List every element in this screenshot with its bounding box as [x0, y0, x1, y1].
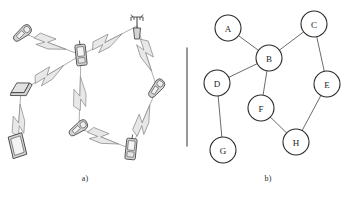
caption-panel-b: b): [248, 174, 288, 183]
tower-mast: [133, 28, 140, 39]
mobile-phone-6: [146, 77, 167, 100]
graph-node-g: G: [210, 137, 236, 163]
graph-edge-a-b: [238, 36, 258, 51]
lightning-bolt-shape: [32, 32, 68, 55]
lightning-bolt-shape: [85, 126, 120, 150]
node-label-g: G: [220, 146, 227, 156]
graph-edge-c-e: [317, 37, 324, 72]
device-pda-1: [74, 40, 87, 66]
graph-svg: ABCDEFGH: [176, 0, 352, 198]
tablet-4: [8, 132, 27, 158]
wireless-mesh-svg: [0, 0, 176, 198]
node-label-h: H: [293, 138, 300, 148]
node-label-f: F: [258, 104, 263, 114]
graph-edge-b-f: [263, 71, 267, 95]
graph-node-f: F: [248, 95, 274, 121]
mobile-phone-0: [11, 23, 34, 44]
node-label-b: B: [266, 54, 272, 64]
lightning-bolt-7: [131, 102, 155, 138]
caption-panel-a: a): [65, 174, 105, 183]
lightning-bolt-shape: [89, 28, 125, 54]
graph-edge-b-c: [279, 32, 303, 50]
pda-keypad: [127, 151, 134, 157]
node-label-e: E: [324, 80, 330, 90]
graph-edge-e-h: [302, 95, 321, 130]
lightning-bolt-shape: [135, 37, 157, 73]
device-flip-phone-5: [67, 118, 90, 138]
graph-node-layer: ABCDEFGH: [204, 11, 340, 163]
lightning-bolt-shape: [32, 60, 67, 88]
antenna-tower-2: [131, 15, 143, 40]
graph-node-d: D: [204, 70, 230, 96]
mobile-phone-5: [67, 118, 90, 138]
node-label-c: C: [311, 20, 317, 30]
lightning-bolt-shape: [131, 102, 155, 138]
device-tablet-4: [8, 132, 27, 158]
lightning-bolt-shape: [12, 104, 26, 138]
lightning-bolt-0: [32, 32, 68, 55]
lightning-bolt-3: [73, 76, 86, 110]
device-flip-phone-6: [146, 77, 167, 100]
device-laptop-3: [7, 79, 34, 101]
device-flip-phone-0: [11, 23, 34, 44]
figure-container: ABCDEFGH a) b): [0, 0, 352, 198]
node-label-d: D: [214, 79, 221, 89]
graph-edge-d-g: [218, 96, 222, 137]
graph-node-a: A: [215, 15, 241, 41]
lightning-bolt-shape: [73, 76, 86, 110]
panel-b-graph: ABCDEFGH: [176, 0, 352, 198]
handheld-pda-1: [74, 40, 87, 66]
lightning-bolt-4: [135, 37, 157, 73]
graph-node-e: E: [314, 71, 340, 97]
pda-screen: [77, 46, 85, 56]
device-antenna-tower-2: [131, 15, 143, 40]
panel-a-wireless-mesh: [0, 0, 176, 198]
graph-node-b: B: [256, 45, 282, 71]
pda-screen: [127, 140, 135, 150]
graph-edge-f-h: [270, 117, 286, 133]
graph-node-h: H: [283, 129, 309, 155]
lightning-bolt-1: [89, 28, 125, 54]
lightning-bolt-2: [32, 60, 67, 88]
node-label-a: A: [225, 24, 232, 34]
laptop-3: [7, 79, 34, 101]
lightning-bolt-5: [12, 104, 26, 138]
graph-edge-b-d: [229, 64, 258, 78]
pda-keypad: [78, 57, 85, 63]
graph-node-c: C: [301, 11, 327, 37]
lightning-bolt-6: [85, 126, 120, 150]
